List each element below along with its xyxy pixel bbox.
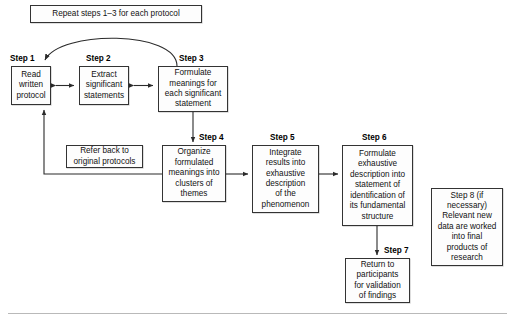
step-box-6[interactable]: Formulate exhaustive description into st…	[342, 145, 413, 226]
step-box-1[interactable]: Read written protocol	[11, 66, 51, 105]
flowchart-canvas: Repeat steps 1–3 for each protocol Step …	[0, 0, 515, 321]
step-box-7[interactable]: Return to participants for validation of…	[345, 258, 410, 303]
step-box-7-text: Return to participants for validation of…	[354, 260, 400, 302]
footer-rule	[8, 313, 507, 314]
step-label-4: Step 4	[199, 133, 224, 142]
step-label-7: Step 7	[384, 246, 409, 255]
step-box-1-text: Read written protocol	[16, 70, 45, 101]
step-box-5-text: Integrate results into exhaustive descri…	[262, 148, 310, 210]
step-box-4[interactable]: Organize formulated meanings into cluste…	[162, 145, 226, 202]
step-box-8[interactable]: Step 8 (if necessary) Relevant new data …	[431, 188, 503, 266]
step-label-3: Step 3	[179, 54, 204, 63]
step-box-3[interactable]: Formulate meanings for each significant …	[158, 66, 228, 112]
refer-back-text: Refer back to original protocols	[74, 146, 136, 167]
step-box-6-text: Formulate exhaustive description into st…	[350, 149, 406, 222]
repeat-banner: Repeat steps 1–3 for each protocol	[30, 5, 202, 23]
step-box-2-text: Extract significant statements	[84, 70, 124, 101]
step-label-1: Step 1	[10, 54, 35, 63]
repeat-banner-text: Repeat steps 1–3 for each protocol	[52, 9, 179, 19]
step-box-5[interactable]: Integrate results into exhaustive descri…	[252, 145, 319, 213]
refer-back-box[interactable]: Refer back to original protocols	[66, 145, 143, 168]
step-label-5: Step 5	[270, 133, 295, 142]
step-box-8-text: Step 8 (if necessary) Relevant new data …	[438, 191, 497, 264]
step-label-2: Step 2	[86, 54, 111, 63]
step-box-3-text: Formulate meanings for each significant …	[165, 68, 221, 110]
loop-arrow-step3-to-step1	[45, 38, 177, 66]
step-label-6: Step 6	[362, 133, 387, 142]
step-box-4-text: Organize formulated meanings into cluste…	[169, 147, 220, 199]
step-box-2[interactable]: Extract significant statements	[79, 66, 129, 105]
